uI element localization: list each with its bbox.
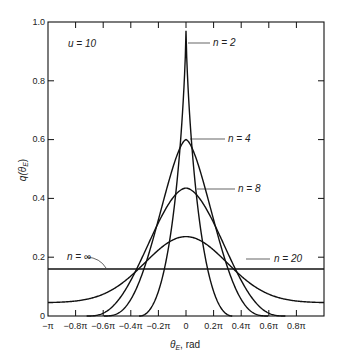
- x-tick-label: 0.8π: [287, 321, 306, 331]
- n2-label: n = 2: [213, 37, 236, 48]
- y-tick-label: 0.4: [32, 193, 45, 203]
- x-tick-label: −0.6π: [91, 321, 115, 331]
- x-axis-title: θE, rad: [170, 339, 200, 351]
- x-tick-label: 0.2π: [204, 321, 223, 331]
- x-tick-label: −π: [42, 321, 53, 331]
- x-tick-label: 0.4π: [232, 321, 251, 331]
- y-tick-label: 0.8: [32, 76, 45, 86]
- x-axis: −π−0.8π−0.6π−0.4π−0.2π00.2π0.4π0.6π0.8π: [42, 22, 306, 331]
- x-tick-label: −0.4π: [119, 321, 143, 331]
- n4-label: n = 4: [228, 133, 251, 144]
- u-annotation: u = 10: [68, 38, 97, 49]
- x-tick-label: −0.8π: [64, 321, 88, 331]
- y-tick-label: 0: [40, 311, 45, 321]
- curves: [48, 31, 324, 316]
- n20-label: n = 20: [274, 253, 303, 264]
- y-axis-title: q(θE): [17, 159, 29, 181]
- x-tick-label: 0: [183, 321, 188, 331]
- x-tick-label: −0.2π: [146, 321, 170, 331]
- chart: 0 0.2 0.4 0.6 0.8 1.0 −π−0.8π−0.6π−0.4π−…: [0, 0, 343, 361]
- curve-n8: [87, 188, 286, 316]
- curve-n2: [139, 31, 232, 316]
- y-tick-label: 0.6: [32, 134, 45, 144]
- ninf-label: n = ∞: [67, 251, 91, 262]
- x-tick-label: 0.6π: [259, 321, 278, 331]
- plot-frame: [48, 22, 324, 316]
- y-tick-label: 1.0: [32, 17, 45, 27]
- y-tick-label: 0.2: [32, 252, 45, 262]
- curve-n4: [104, 140, 268, 316]
- n8-label: n = 8: [238, 183, 261, 194]
